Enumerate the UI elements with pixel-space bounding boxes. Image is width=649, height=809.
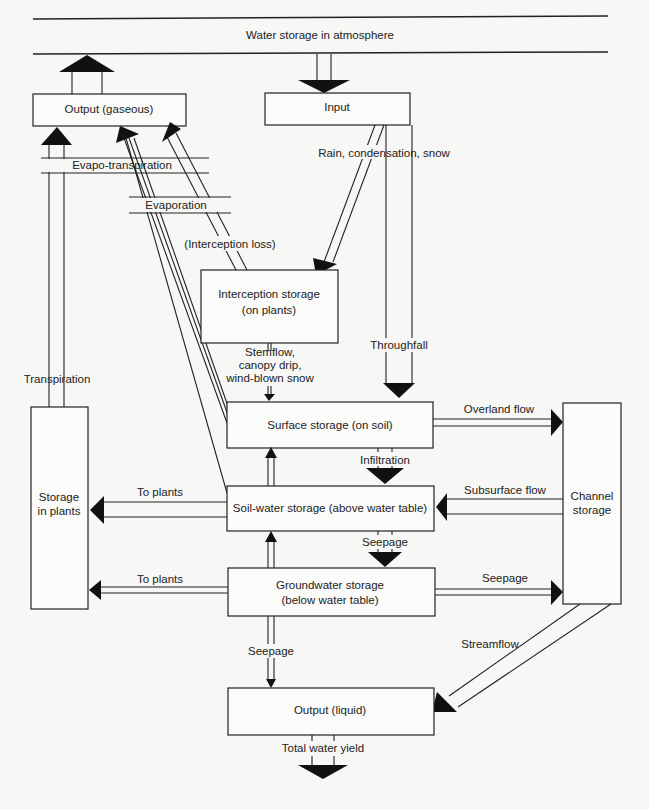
stemflow-label-1: Stemflow, xyxy=(245,346,295,358)
overland-flow-arrow: Overland flow xyxy=(433,403,563,436)
evapo-transpiration-band: Evapo-transpiration xyxy=(41,158,209,173)
svg-text:Channel: Channel xyxy=(571,490,614,502)
svg-text:Surface storage (on soil): Surface storage (on soil) xyxy=(267,419,392,431)
groundwater-to-soil-arrow xyxy=(265,531,277,568)
svg-text:(on plants): (on plants) xyxy=(242,304,297,316)
subsurface-flow-label: Subsurface flow xyxy=(464,484,547,496)
storage-in-plants-node: Storage in plants xyxy=(31,407,88,609)
streamflow-arrow: Streamflow xyxy=(432,604,611,712)
streamflow-label: Streamflow xyxy=(461,638,519,650)
gaseous-to-atmosphere-arrow xyxy=(59,55,115,94)
interception-loss-label: (Interception loss) xyxy=(184,238,276,250)
svg-text:in plants: in plants xyxy=(38,505,81,517)
infiltration-label: Infiltration xyxy=(360,454,410,466)
to-plants-label-1: To plants xyxy=(137,486,183,498)
to-plants-arrow-1: To plants xyxy=(90,486,227,524)
output-gaseous-node: Output (gaseous) xyxy=(33,94,186,126)
to-plants-arrow-2: To plants xyxy=(89,573,228,600)
throughfall-label: Throughfall xyxy=(370,339,428,351)
svg-text:Soil-water storage (above wate: Soil-water storage (above water table) xyxy=(233,502,427,514)
svg-text:Groundwater storage: Groundwater storage xyxy=(276,579,384,591)
interception-storage-node: Interception storage (on plants) xyxy=(201,270,338,343)
svg-text:(below water table): (below water table) xyxy=(281,594,378,606)
svg-text:Storage: Storage xyxy=(39,491,79,503)
total-water-yield-arrow: Total water yield xyxy=(282,735,364,779)
seepage-label-1: Seepage xyxy=(362,536,408,548)
throughfall-arrow: Throughfall xyxy=(370,125,432,398)
input-node: Input xyxy=(265,93,410,125)
rain-label: Rain, condensation, snow xyxy=(318,147,450,159)
soil-water-storage-node: Soil-water storage (above water table) xyxy=(227,486,434,531)
output-liquid-node: Output (liquid) xyxy=(228,688,434,735)
evapo-transpiration-label: Evapo-transpiration xyxy=(72,159,172,171)
svg-text:Output (gaseous): Output (gaseous) xyxy=(65,103,154,115)
total-water-yield-label: Total water yield xyxy=(282,742,364,754)
stemflow-label-2: canopy drip, xyxy=(239,359,302,371)
atmosphere-to-input-arrow xyxy=(298,54,350,93)
evaporation-label: Evaporation xyxy=(145,199,206,211)
stemflow-label-3: wind-blown snow xyxy=(225,372,314,384)
svg-text:Interception storage: Interception storage xyxy=(218,288,320,300)
seepage-right-arrow: Seepage xyxy=(435,572,563,605)
subsurface-flow-arrow: Subsurface flow xyxy=(436,484,563,521)
seepage-label-2: Seepage xyxy=(482,572,528,584)
transpiration-label: Transpiration xyxy=(24,373,91,385)
rain-arrow: Rain, condensation, snow xyxy=(313,125,451,275)
stemflow-arrow: Stemflow, canopy drip, wind-blown snow xyxy=(225,343,314,401)
evaporation-band: Evaporation xyxy=(129,197,231,213)
to-plants-label-2: To plants xyxy=(137,573,183,585)
infiltration-arrow: Infiltration xyxy=(360,448,412,484)
soil-to-surface-arrow xyxy=(265,447,277,486)
seepage-label-3: Seepage xyxy=(248,645,294,657)
svg-text:Input: Input xyxy=(324,101,350,113)
groundwater-storage-node: Groundwater storage (below water table) xyxy=(228,568,435,616)
svg-text:Output (liquid): Output (liquid) xyxy=(294,704,366,716)
overland-flow-label: Overland flow xyxy=(464,403,535,415)
atmosphere-band: Water storage in atmosphere xyxy=(33,16,608,54)
hydrological-cycle-diagram: Water storage in atmosphere Output (gase… xyxy=(0,0,649,809)
surface-storage-node: Surface storage (on soil) xyxy=(227,402,433,448)
channel-storage-node: Channel storage xyxy=(563,403,621,604)
atmosphere-label: Water storage in atmosphere xyxy=(246,29,394,41)
seepage-to-output-arrow: Seepage xyxy=(246,616,296,688)
svg-text:storage: storage xyxy=(573,504,611,516)
seepage-down-arrow: Seepage xyxy=(360,531,410,567)
